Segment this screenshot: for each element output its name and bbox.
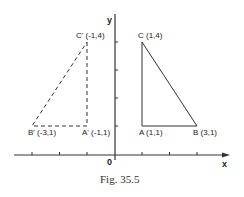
- vertex-label-c: C (1,4): [138, 31, 163, 40]
- origin-label: 0: [107, 157, 112, 167]
- reflection-diagram: x y 0 C (1,4) A (1,1) B (3,1) C' (-1,4) …: [0, 0, 244, 197]
- vertex-label-a: A (1,1): [139, 128, 163, 137]
- y-axis-label: y: [107, 15, 112, 25]
- figure-caption: Fig. 35.5: [100, 173, 140, 185]
- vertex-label-b: B (3,1): [193, 128, 217, 137]
- x-axis-label: x: [222, 159, 227, 169]
- x-axis: x: [14, 152, 230, 169]
- y-axis: y 0: [107, 14, 118, 167]
- triangle-abc: C (1,4) A (1,1) B (3,1): [138, 31, 217, 137]
- vertex-label-b-prime: B' (-3,1): [28, 128, 57, 137]
- x-axis-arrow-icon: [222, 153, 230, 158]
- vertex-label-a-prime: A' (-1,1): [82, 128, 111, 137]
- triangle-a-prime-b-prime-c-prime: C' (-1,4) A' (-1,1) B' (-3,1): [28, 31, 111, 137]
- vertex-label-c-prime: C' (-1,4): [76, 31, 105, 40]
